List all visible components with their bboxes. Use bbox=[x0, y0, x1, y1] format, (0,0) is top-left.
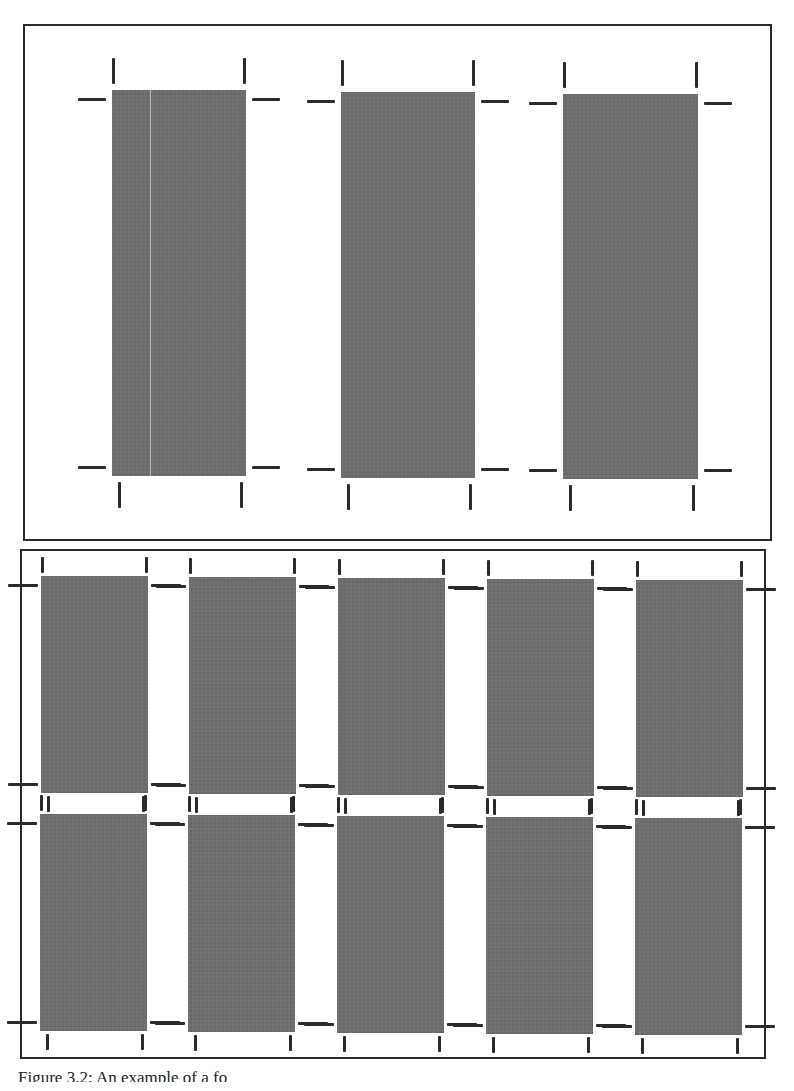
crop-mark-icon bbox=[453, 1024, 483, 1027]
crop-mark-icon bbox=[481, 100, 509, 103]
crop-mark-icon bbox=[156, 585, 186, 588]
crop-mark-icon bbox=[442, 559, 445, 575]
card-placeholder bbox=[341, 92, 475, 478]
crop-mark-icon bbox=[602, 1025, 632, 1028]
crop-mark-icon bbox=[746, 588, 776, 591]
crop-mark-icon bbox=[145, 557, 148, 573]
crop-mark-icon bbox=[454, 587, 484, 590]
crop-mark-icon bbox=[739, 799, 742, 815]
crop-mark-icon bbox=[341, 60, 344, 86]
crop-mark-icon bbox=[344, 798, 347, 814]
crop-mark-icon bbox=[305, 586, 335, 589]
crop-mark-icon bbox=[292, 796, 295, 812]
crop-mark-icon bbox=[602, 826, 632, 829]
crop-mark-icon bbox=[563, 62, 566, 88]
crop-mark-icon bbox=[41, 557, 44, 573]
crop-mark-icon bbox=[347, 484, 350, 510]
crop-mark-icon bbox=[746, 787, 776, 790]
crop-mark-icon bbox=[472, 60, 475, 86]
crop-mark-icon bbox=[487, 560, 490, 576]
card-placeholder bbox=[189, 577, 296, 794]
card-placeholder bbox=[636, 580, 743, 797]
crop-mark-icon bbox=[112, 58, 115, 84]
card-placeholder bbox=[338, 578, 445, 795]
crop-mark-icon bbox=[194, 1035, 197, 1051]
crop-mark-icon bbox=[704, 102, 732, 105]
card-placeholder bbox=[41, 576, 148, 793]
crop-mark-icon bbox=[529, 102, 557, 105]
crop-mark-icon bbox=[745, 1025, 775, 1028]
crop-mark-icon bbox=[305, 785, 335, 788]
crop-mark-icon bbox=[189, 558, 192, 574]
crop-mark-icon bbox=[118, 482, 121, 508]
crop-mark-icon bbox=[252, 466, 280, 469]
crop-mark-icon bbox=[642, 800, 645, 816]
crop-mark-icon bbox=[46, 1034, 49, 1050]
card-placeholder bbox=[40, 814, 147, 1031]
crop-mark-icon bbox=[188, 796, 191, 812]
card-placeholder bbox=[112, 90, 246, 476]
crop-mark-icon bbox=[155, 823, 185, 826]
crop-mark-icon bbox=[293, 558, 296, 574]
crop-mark-icon bbox=[636, 561, 639, 577]
card-placeholder bbox=[337, 816, 444, 1033]
crop-mark-icon bbox=[603, 787, 633, 790]
crop-mark-icon bbox=[156, 784, 186, 787]
crop-mark-icon bbox=[240, 482, 243, 508]
crop-mark-icon bbox=[343, 1036, 346, 1052]
figure-caption: Figure 3.2: An example of a fo bbox=[18, 1068, 227, 1088]
crop-mark-icon bbox=[304, 1023, 334, 1026]
crop-mark-icon bbox=[695, 62, 698, 88]
crop-mark-icon bbox=[304, 824, 334, 827]
crop-mark-icon bbox=[692, 485, 695, 511]
crop-mark-icon bbox=[338, 559, 341, 575]
crop-mark-icon bbox=[289, 1035, 292, 1051]
card-placeholder bbox=[486, 817, 593, 1034]
crop-mark-icon bbox=[144, 795, 147, 811]
crop-mark-icon bbox=[493, 799, 496, 815]
crop-mark-icon bbox=[252, 98, 280, 101]
crop-mark-icon bbox=[47, 796, 50, 812]
card-placeholder bbox=[487, 579, 594, 796]
crop-mark-icon bbox=[441, 797, 444, 813]
crop-mark-icon bbox=[307, 100, 335, 103]
crop-mark-icon bbox=[8, 783, 38, 786]
crop-mark-icon bbox=[481, 468, 509, 471]
crop-mark-icon bbox=[745, 826, 775, 829]
crop-mark-icon bbox=[590, 798, 593, 814]
crop-mark-icon bbox=[78, 466, 106, 469]
crop-mark-icon bbox=[492, 1037, 495, 1053]
crop-mark-icon bbox=[736, 1038, 739, 1054]
crop-mark-icon bbox=[591, 560, 594, 576]
crop-mark-icon bbox=[337, 797, 340, 813]
crop-mark-icon bbox=[569, 485, 572, 511]
crop-mark-icon bbox=[587, 1037, 590, 1053]
crop-mark-icon bbox=[486, 798, 489, 814]
crop-mark-icon bbox=[40, 795, 43, 811]
crop-mark-icon bbox=[453, 825, 483, 828]
fold-line bbox=[150, 90, 151, 476]
crop-mark-icon bbox=[7, 1021, 37, 1024]
crop-mark-icon bbox=[8, 584, 38, 587]
crop-mark-icon bbox=[641, 1038, 644, 1054]
card-placeholder bbox=[635, 818, 742, 1035]
crop-mark-icon bbox=[635, 799, 638, 815]
crop-mark-icon bbox=[704, 469, 732, 472]
crop-mark-icon bbox=[243, 58, 246, 84]
crop-mark-icon bbox=[603, 588, 633, 591]
crop-mark-icon bbox=[529, 469, 557, 472]
crop-mark-icon bbox=[740, 561, 743, 577]
crop-mark-icon bbox=[141, 1034, 144, 1050]
crop-mark-icon bbox=[454, 786, 484, 789]
crop-mark-icon bbox=[195, 797, 198, 813]
crop-mark-icon bbox=[7, 822, 37, 825]
card-placeholder bbox=[188, 815, 295, 1032]
crop-mark-icon bbox=[155, 1022, 185, 1025]
card-placeholder bbox=[563, 94, 698, 479]
crop-mark-icon bbox=[469, 484, 472, 510]
crop-mark-icon bbox=[307, 468, 335, 471]
crop-mark-icon bbox=[78, 98, 106, 101]
crop-mark-icon bbox=[438, 1036, 441, 1052]
